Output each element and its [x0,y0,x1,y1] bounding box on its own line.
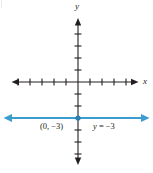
y-intercept-point-marker [75,115,80,120]
graph-figure: y x (0, −3) y = −3 [0,0,153,173]
y-axis-label: y [75,2,79,11]
point-label-annotation: (0, −3) [40,122,63,131]
graph-line-left-arrowhead [4,114,13,122]
x-axis-right-arrowhead [131,79,139,85]
coordinate-plane-svg [0,0,153,173]
y-axis-top-arrowhead [75,18,81,26]
y-axis-bottom-arrowhead [75,158,81,166]
x-axis-label: x [143,77,147,86]
equation-label-value: = −3 [97,121,115,131]
equation-label-annotation: y = −3 [93,122,115,131]
graph-line-right-arrowhead [141,114,150,122]
